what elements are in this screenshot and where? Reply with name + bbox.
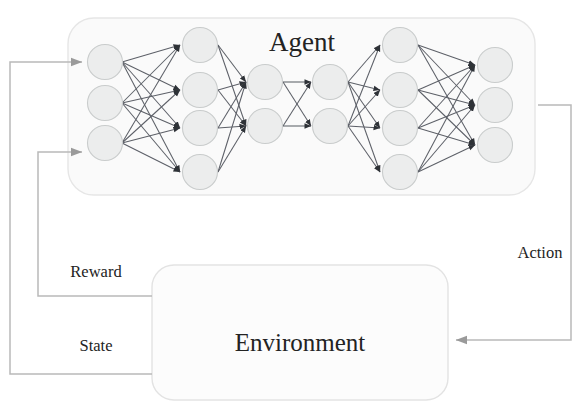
neuron-node: [313, 65, 348, 100]
neuron-node: [88, 45, 123, 80]
neuron-node: [183, 28, 218, 63]
neuron-node: [383, 28, 418, 63]
action-label: Action: [518, 243, 563, 262]
neuron-node: [183, 73, 218, 108]
neuron-node: [88, 126, 123, 161]
neuron-node: [478, 88, 513, 123]
input-layer: [88, 45, 123, 161]
neuron-node: [383, 111, 418, 146]
neuron-node: [248, 65, 283, 100]
agent-label: Agent: [269, 27, 335, 57]
neuron-node: [313, 109, 348, 144]
neuron-node: [183, 111, 218, 146]
neuron-node: [383, 73, 418, 108]
neuron-node: [478, 128, 513, 163]
neuron-node: [383, 155, 418, 190]
diagram-canvas: Agent Environment Reward State Action: [0, 0, 585, 410]
neuron-node: [248, 109, 283, 144]
neuron-node: [478, 48, 513, 83]
rl-loop-diagram: Agent Environment Reward State Action: [0, 0, 585, 410]
reward-label: Reward: [70, 262, 122, 281]
output-layer: [478, 48, 513, 163]
neuron-node: [88, 86, 123, 121]
neuron-node: [183, 155, 218, 190]
environment-label: Environment: [235, 329, 366, 356]
state-label: State: [80, 336, 113, 355]
